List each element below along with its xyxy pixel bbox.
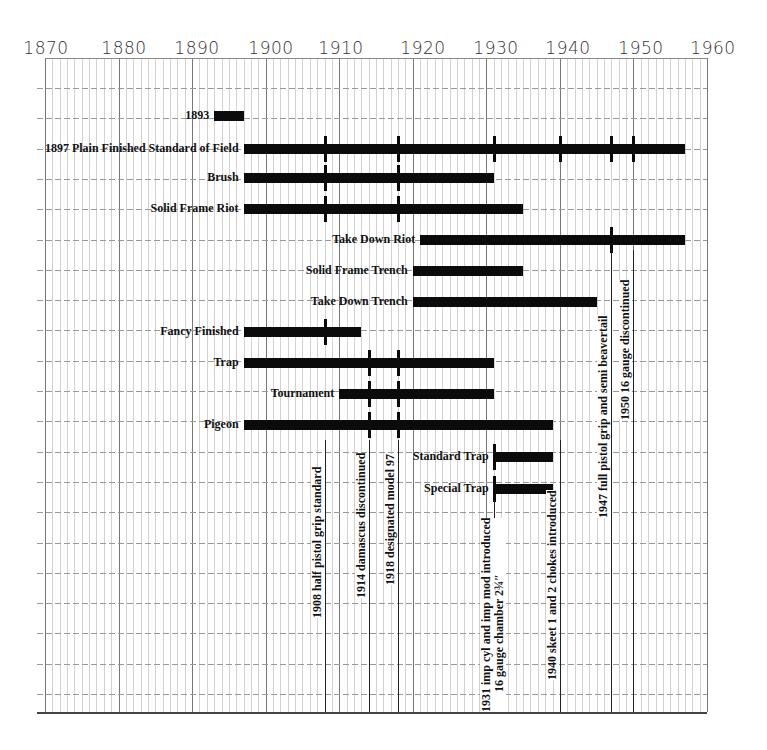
gridline-horizontal: [37, 664, 707, 665]
gridline-major: [266, 58, 267, 712]
event-label: 1950 16 gauge discontinued: [619, 280, 632, 420]
gridline-minor: [383, 58, 384, 712]
gridline-minor: [692, 58, 693, 712]
gridline-minor: [641, 58, 642, 712]
timeline-bar: [244, 144, 685, 154]
gridline-minor: [442, 58, 443, 712]
event-marker: [324, 319, 327, 345]
gridline-minor: [523, 58, 524, 712]
event-label: 1918 designated model 97: [384, 454, 397, 585]
gridline-minor: [155, 58, 156, 712]
event-marker: [324, 165, 327, 191]
event-marker: [610, 136, 613, 162]
gridline-minor: [163, 58, 164, 712]
gridline-minor: [236, 58, 237, 712]
gridline-horizontal: [37, 88, 707, 89]
bar-label: 1897 Plain Finished Standard of Field: [45, 141, 243, 156]
timeline-chart: 1870 1880 1890 1900 1910 1920 1930 1940 …: [0, 0, 767, 750]
event-marker: [632, 136, 635, 162]
gridline-minor: [361, 58, 362, 712]
bar-label: Pigeon: [204, 417, 243, 432]
timeline-bar: [494, 484, 553, 494]
gridline-major: [119, 58, 120, 712]
event-label: 1940 skeet 1 and 2 chokes introduced: [546, 490, 559, 680]
timeline-bar: [244, 204, 524, 214]
gridline-minor: [538, 58, 539, 712]
event-marker: [324, 196, 327, 222]
gridline-minor: [582, 58, 583, 712]
gridline-minor: [347, 58, 348, 712]
gridline-minor: [170, 58, 171, 712]
gridline-minor: [60, 58, 61, 712]
gridline-minor: [126, 58, 127, 712]
gridline-minor: [104, 58, 105, 712]
event-marker: [324, 136, 327, 162]
bar-label: Solid Frame Trench: [306, 263, 412, 278]
gridline-minor: [589, 58, 590, 712]
timeline-bar: [244, 327, 362, 337]
gridline-minor: [52, 58, 53, 712]
gridline-minor: [177, 58, 178, 712]
gridline-minor: [148, 58, 149, 712]
bar-label: Tournament: [271, 386, 339, 401]
event-line: [369, 440, 370, 712]
event-marker: [493, 136, 496, 162]
gridline-minor: [207, 58, 208, 712]
axis-label-1890: 1890: [174, 38, 219, 58]
gridline-minor: [111, 58, 112, 712]
gridline-minor: [656, 58, 657, 712]
event-label: 1908 half pistol grip standard: [311, 467, 324, 618]
event-label: 1931 imp cyl and imp mod introduced16 ga…: [480, 518, 506, 712]
gridline-minor: [670, 58, 671, 712]
timeline-bar: [413, 266, 523, 276]
gridline-minor: [391, 58, 392, 712]
gridline-minor: [700, 58, 701, 712]
event-line: [398, 440, 399, 712]
gridline-minor: [141, 58, 142, 712]
gridline-minor: [258, 58, 259, 712]
gridline-minor: [435, 58, 436, 712]
gridline-minor: [530, 58, 531, 712]
gridline-minor: [472, 58, 473, 712]
event-label: 1947 full pistol grip and semi beavertai…: [597, 315, 610, 518]
gridline-minor: [133, 58, 134, 712]
gridline-minor: [464, 58, 465, 712]
timeline-bar: [339, 389, 493, 399]
gridline-minor: [96, 58, 97, 712]
event-marker: [493, 444, 496, 470]
axis-label-1950: 1950: [618, 38, 663, 58]
event-line: [325, 440, 326, 712]
event-marker: [559, 136, 562, 162]
axis-label-1940: 1940: [545, 38, 590, 58]
frame-bottom: [37, 712, 707, 714]
gridline-minor: [89, 58, 90, 712]
axis-label-1920: 1920: [400, 38, 445, 58]
axis-label-1880: 1880: [101, 38, 146, 58]
event-line: [633, 250, 634, 712]
gridline-minor: [663, 58, 664, 712]
gridline-minor: [450, 58, 451, 712]
gridline-minor: [214, 58, 215, 712]
gridline-minor: [199, 58, 200, 712]
gridline-horizontal: [37, 694, 707, 695]
timeline-bar: [214, 111, 243, 121]
event-marker: [368, 381, 371, 407]
gridline-minor: [376, 58, 377, 712]
gridline-minor: [74, 58, 75, 712]
event-marker: [397, 381, 400, 407]
gridline-minor: [251, 58, 252, 712]
bar-label: Special Trap: [424, 481, 493, 496]
event-marker: [368, 412, 371, 438]
event-line: [611, 250, 612, 712]
gridline-major: [45, 58, 46, 712]
bar-label: Solid Frame Riot: [151, 201, 243, 216]
gridline-minor: [575, 58, 576, 712]
event-label: 1914 damascus discontinued: [355, 453, 368, 598]
bar-label: Standard Trap: [413, 449, 493, 464]
bar-label: Trap: [213, 355, 242, 370]
gridline-minor: [457, 58, 458, 712]
gridline-minor: [185, 58, 186, 712]
gridline-major: [192, 58, 193, 712]
gridline-horizontal: [37, 543, 707, 544]
event-marker: [397, 136, 400, 162]
